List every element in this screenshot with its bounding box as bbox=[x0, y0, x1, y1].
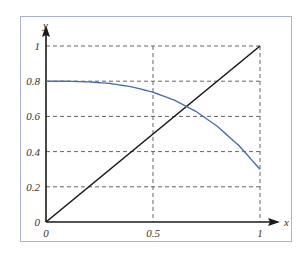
y-tick-label: 1 bbox=[35, 40, 41, 52]
x-tick-label: 0.5 bbox=[146, 227, 160, 239]
y-axis-label: y bbox=[42, 19, 48, 31]
x-tick-label: 1 bbox=[257, 227, 263, 239]
x-tick-label: 0 bbox=[43, 227, 49, 239]
y-tick-label: 0.6 bbox=[26, 110, 40, 122]
y-tick-label: 0.2 bbox=[26, 181, 40, 193]
y-tick-label: 0.4 bbox=[26, 146, 40, 158]
y-tick-label: 0.8 bbox=[26, 75, 40, 87]
x-axis-label: x bbox=[283, 216, 289, 228]
y-tick-label: 0 bbox=[35, 216, 41, 228]
chart: x y 00.20.40.60.8100.51 bbox=[0, 0, 304, 259]
